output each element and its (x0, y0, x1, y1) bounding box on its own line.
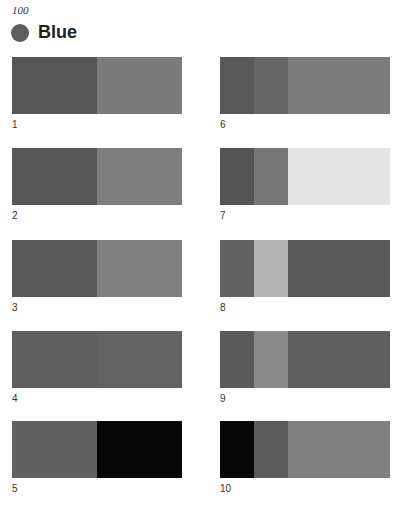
swatch-segment (254, 421, 288, 478)
swatch-segment (288, 331, 390, 388)
swatch-segment (97, 331, 182, 388)
page-number: 100 (12, 4, 29, 16)
swatch-label: 2 (12, 210, 18, 221)
swatch-label: 7 (220, 210, 226, 221)
swatch-segment (220, 148, 254, 205)
swatch-segment (254, 240, 288, 297)
color-dot-icon (11, 24, 29, 42)
color-swatch-7 (220, 148, 390, 205)
swatch-segment (288, 148, 390, 205)
swatch-segment (288, 421, 390, 478)
color-swatch-4 (12, 331, 182, 388)
swatch-segment (254, 148, 288, 205)
swatch-segment (288, 240, 390, 297)
swatch-segment (12, 148, 97, 205)
color-swatch-2 (12, 148, 182, 205)
color-swatch-6 (220, 57, 390, 114)
color-swatch-8 (220, 240, 390, 297)
swatch-label: 8 (220, 302, 226, 313)
color-swatch-3 (12, 240, 182, 297)
swatch-segment (220, 240, 254, 297)
swatch-segment (220, 421, 254, 478)
swatch-segment (97, 148, 182, 205)
swatch-segment (97, 57, 182, 114)
swatch-segment (220, 57, 254, 114)
swatch-label: 4 (12, 393, 18, 404)
color-swatch-5 (12, 421, 182, 478)
color-swatch-1 (12, 57, 182, 114)
swatch-label: 1 (12, 119, 18, 130)
color-swatch-10 (220, 421, 390, 478)
swatch-label: 6 (220, 119, 226, 130)
swatch-segment (97, 240, 182, 297)
swatch-segment (97, 421, 182, 478)
color-swatch-9 (220, 331, 390, 388)
swatch-label: 3 (12, 302, 18, 313)
page-title: Blue (38, 22, 77, 43)
swatch-segment (254, 331, 288, 388)
swatch-segment (288, 57, 390, 114)
swatch-segment (220, 331, 254, 388)
swatch-segment (12, 421, 97, 478)
swatch-segment (12, 57, 97, 114)
swatch-segment (254, 57, 288, 114)
swatch-segment (12, 331, 97, 388)
swatch-segment (12, 240, 97, 297)
swatch-label: 10 (220, 483, 231, 494)
swatch-label: 9 (220, 393, 226, 404)
swatch-label: 5 (12, 483, 18, 494)
